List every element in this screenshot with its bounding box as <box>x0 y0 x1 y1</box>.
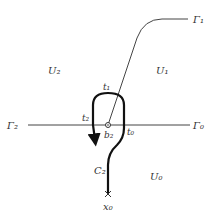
label-u2: U₂ <box>48 65 60 76</box>
gamma1-curve <box>108 19 188 125</box>
label-c2: C₂ <box>94 165 106 176</box>
label-t1: t₁ <box>103 82 110 92</box>
label-t0: t₀ <box>127 127 135 137</box>
label-gamma0: Γ₀ <box>192 120 204 131</box>
label-x0: x₀ <box>103 201 113 212</box>
label-u1: U₁ <box>156 65 168 76</box>
label-gamma2: Γ₂ <box>6 120 18 131</box>
label-b2: b₂ <box>104 130 114 140</box>
label-gamma1: Γ₁ <box>192 14 204 25</box>
label-u0: U₀ <box>150 171 162 182</box>
diagram-canvas: Γ₁ U₂ U₁ t₁ Γ₂ t₂ b₂ t₀ Γ₀ C₂ U₀ x₀ <box>0 0 214 221</box>
label-t2: t₂ <box>82 113 90 123</box>
c2-loop-path <box>93 93 124 193</box>
